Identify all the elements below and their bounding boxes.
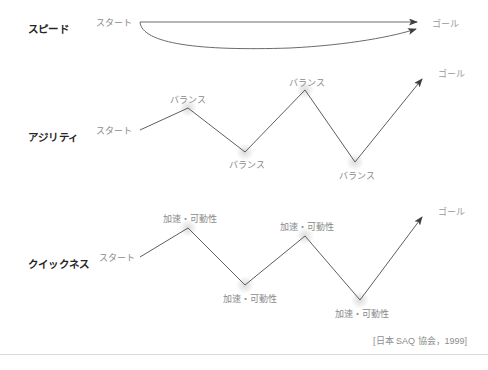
quickness-node-label-3: 加速・可動性	[280, 220, 334, 233]
bottom-divider	[0, 354, 488, 355]
quickness-node-label-1: 加速・可動性	[163, 212, 217, 225]
agility-node-label-3: バランス	[289, 76, 325, 89]
speed-start-label: スタート	[96, 16, 132, 29]
agility-start-label: スタート	[96, 124, 132, 137]
quickness-node-label-2: 加速・可動性	[223, 292, 277, 305]
row-title-speed: スピード	[28, 21, 69, 36]
speed-curved-arrow	[140, 22, 416, 49]
source-citation: [日本 SAQ 協会，1999]	[373, 334, 467, 347]
row-title-quickness: クイックネス	[28, 256, 89, 271]
quickness-node-label-4: 加速・可動性	[335, 307, 389, 320]
quickness-goal-label: ゴール	[438, 205, 465, 218]
diagram-canvas	[0, 0, 488, 370]
speed-goal-label: ゴール	[432, 17, 459, 30]
agility-node-label-1: バランス	[170, 93, 206, 106]
agility-zigzag-arrow	[140, 79, 422, 162]
row-title-agility: アジリティ	[28, 129, 78, 144]
saq-diagram-figure: スピード スタート ゴール アジリティ スタート バランス バランス バランス …	[0, 0, 488, 370]
agility-node-label-2: バランス	[229, 158, 265, 171]
agility-node-label-4: バランス	[339, 169, 375, 182]
quickness-start-label: スタート	[99, 251, 135, 264]
agility-goal-label: ゴール	[438, 67, 465, 80]
speed-path-group	[140, 22, 417, 49]
